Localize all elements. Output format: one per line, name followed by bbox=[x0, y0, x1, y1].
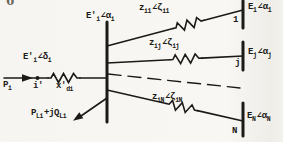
internal-node-label: i' bbox=[33, 81, 43, 91]
injection-label: Pi bbox=[3, 80, 13, 91]
corner-artifact-glyph: 6 bbox=[6, 0, 14, 8]
emf-label: E'i∠δi bbox=[23, 52, 52, 63]
power-flow-arrowhead-icon bbox=[22, 74, 33, 82]
branch-1-resistor bbox=[172, 16, 205, 33]
internal-bus-voltage-label: E'i∠αi bbox=[86, 11, 115, 22]
branch-j-impedance-label: zij∠ζij bbox=[149, 38, 180, 49]
diagram-canvas bbox=[0, 0, 283, 142]
branch-j-resistor bbox=[170, 54, 202, 65]
branch-j-line-a bbox=[107, 60, 170, 63]
bus-j-number: j bbox=[235, 58, 240, 68]
reactance-label: x'di bbox=[56, 81, 74, 92]
load-label: PLi+jQLi bbox=[31, 108, 67, 119]
branch-N-line-b bbox=[197, 111, 243, 121]
load-arrowhead-icon bbox=[73, 112, 83, 121]
bus-N-number: N bbox=[232, 126, 237, 136]
bus-N-voltage-label: EN∠αN bbox=[247, 111, 271, 122]
one-machine-network-diagram: 6 Pi E'i∠δi i' x'di E'i∠αi PLi+jQLi zi1∠… bbox=[0, 0, 283, 142]
other-branches-dashed-line bbox=[108, 74, 240, 88]
bus-1-voltage-label: E1∠α1 bbox=[248, 2, 272, 13]
bus-1-number: 1 bbox=[233, 15, 238, 25]
bus-j-voltage-label: Ej∠αj bbox=[248, 47, 272, 58]
branch-N-impedance-label: ziN∠ζiN bbox=[152, 92, 183, 103]
load-line bbox=[81, 98, 107, 116]
internal-node-dot bbox=[36, 76, 40, 80]
branch-1-impedance-label: zi1∠ζi1 bbox=[139, 3, 170, 14]
